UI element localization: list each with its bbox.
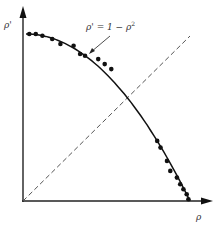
data-point	[71, 43, 76, 48]
y-axis-arrow-icon	[20, 6, 27, 18]
data-point	[178, 182, 183, 187]
y-axis-label: ρ'	[3, 20, 12, 30]
data-point	[27, 32, 32, 37]
curve-annotation: ρ' = 1 − ρ2	[85, 20, 135, 32]
x-axis-arrow-icon	[201, 198, 213, 205]
data-point	[158, 145, 163, 150]
data-point	[102, 62, 107, 67]
data-point	[83, 53, 88, 58]
figure: ρ' ρ ρ' = 1 − ρ2	[0, 0, 219, 226]
annotation-arrow	[91, 36, 110, 52]
data-point	[50, 37, 55, 42]
data-point	[109, 67, 114, 72]
data-point	[96, 57, 101, 62]
fit-curve	[26, 34, 190, 201]
axes	[20, 6, 214, 205]
data-point	[175, 175, 180, 180]
data-point	[184, 192, 189, 197]
data-point	[155, 139, 160, 144]
data-point	[165, 159, 170, 164]
data-point	[181, 187, 186, 192]
data-point	[58, 42, 63, 47]
data-point	[78, 52, 83, 57]
data-point	[34, 32, 39, 37]
x-axis-label: ρ	[195, 212, 202, 222]
data-point	[40, 33, 45, 38]
identity-dashed-line	[23, 36, 190, 201]
data-point	[168, 169, 173, 174]
data-point	[186, 197, 191, 202]
